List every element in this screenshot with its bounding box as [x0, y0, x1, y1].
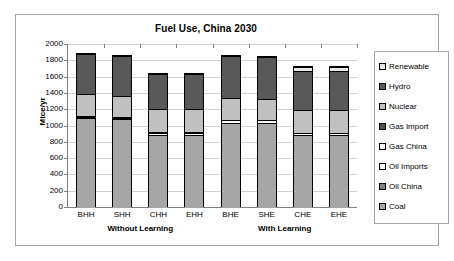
bar-segment-coal	[222, 124, 240, 208]
legend-swatch-icon	[379, 183, 386, 190]
bar-ehe[interactable]	[329, 66, 349, 207]
x-axis-label-che: CHE	[283, 210, 323, 219]
y-axis-tick-label: 1200	[23, 105, 63, 113]
bar-segment-oil-china	[222, 123, 240, 124]
y-axis-tick-label: 1400	[23, 89, 63, 97]
y-axis-tick	[64, 109, 68, 110]
x-axis-tick	[140, 44, 141, 48]
bar-segment-gas-import	[185, 132, 203, 133]
y-axis-tick	[64, 93, 68, 94]
group-label-without-learning: Without Learning	[70, 224, 210, 233]
legend-swatch-icon	[379, 143, 386, 150]
legend-swatch-icon	[379, 163, 386, 170]
legend-label: Renewable	[389, 62, 429, 71]
bar-segment-gas-import	[330, 133, 348, 134]
legend-item-coal[interactable]: Coal	[379, 196, 448, 216]
y-axis-tick-label: 0	[23, 203, 63, 211]
bar-segment-hydro	[258, 57, 276, 99]
legend-swatch-icon	[379, 203, 386, 210]
bar-segment-gas-import	[149, 132, 167, 133]
y-axis-tick	[64, 126, 68, 127]
bar-segment-nuclear	[149, 109, 167, 132]
x-axis-label-shh: SHH	[102, 210, 142, 219]
bar-segment-nuclear	[77, 94, 95, 116]
y-axis-tick	[64, 77, 68, 78]
bar-segment-hydro	[77, 54, 95, 94]
bar-segment-coal	[149, 135, 167, 208]
x-axis-tick	[321, 44, 322, 48]
bar-segment-nuclear	[258, 99, 276, 120]
legend-label: Oil China	[389, 182, 422, 191]
legend-swatch-icon	[379, 123, 386, 130]
legend-item-renewable[interactable]: Renewable	[379, 56, 448, 76]
bar-shh[interactable]	[112, 55, 132, 207]
x-axis-tick	[213, 44, 214, 48]
y-axis-tick	[64, 158, 68, 159]
x-axis-tick	[357, 44, 358, 48]
bar-segment-nuclear	[185, 109, 203, 132]
y-axis-tick	[64, 174, 68, 175]
bar-segment-nuclear	[222, 98, 240, 119]
bar-segment-nuclear	[294, 110, 312, 133]
x-axis-label-bhe: BHE	[211, 210, 251, 219]
y-axis-tick-label: 800	[23, 138, 63, 146]
legend-item-oil-china[interactable]: Oil China	[379, 176, 448, 196]
legend-swatch-icon	[379, 83, 386, 90]
y-axis-tick-label: 1000	[23, 122, 63, 130]
bar-che[interactable]	[293, 66, 313, 207]
x-axis-label-ehh: EHH	[174, 210, 214, 219]
bar-segment-coal	[77, 119, 95, 208]
bar-segment-oil-china	[294, 135, 312, 136]
x-axis-tick	[285, 44, 286, 48]
x-axis-tick	[176, 44, 177, 48]
chart-figure: Fuel Use, China 2030 Mtce/yr 02004006008…	[0, 0, 454, 261]
legend-item-oil-imports[interactable]: Oil Imports	[379, 156, 448, 176]
legend-label: Hydro	[389, 82, 410, 91]
x-axis-label-bhh: BHH	[66, 210, 106, 219]
bar-bhe[interactable]	[221, 55, 241, 207]
bar-segment-hydro	[222, 56, 240, 98]
bar-chh[interactable]	[148, 73, 168, 207]
legend-item-gas-import[interactable]: Gas Import	[379, 116, 448, 136]
bar-segment-gas-import	[113, 117, 131, 118]
legend-swatch-icon	[379, 103, 386, 110]
bar-segment-oil-china	[149, 135, 167, 136]
bar-segment-coal	[185, 135, 203, 208]
bar-segment-oil-china	[113, 119, 131, 120]
y-axis-tick-label: 1600	[23, 73, 63, 81]
chart-frame: Fuel Use, China 2030 Mtce/yr 02004006008…	[15, 14, 439, 246]
legend-label: Coal	[389, 202, 405, 211]
chart-legend: RenewableHydroNuclearGas ImportGas China…	[374, 51, 449, 224]
bar-segment-gas-import	[258, 120, 276, 121]
y-axis-tick	[64, 44, 68, 45]
y-axis-tick	[64, 207, 68, 208]
bar-segment-oil-china	[185, 135, 203, 136]
bar-segment-oil-china	[77, 118, 95, 119]
x-axis-tick	[249, 44, 250, 48]
legend-label: Nuclear	[389, 102, 417, 111]
legend-item-gas-china[interactable]: Gas China	[379, 136, 448, 156]
bar-segment-renewable	[330, 67, 348, 71]
bar-segment-nuclear	[330, 110, 348, 133]
legend-label: Gas Import	[389, 122, 429, 131]
bar-segment-gas-import	[222, 120, 240, 121]
bar-segment-coal	[113, 120, 131, 208]
bar-segment-oil-china	[330, 135, 348, 136]
bar-she[interactable]	[257, 56, 277, 207]
y-axis-tick-label: 2000	[23, 40, 63, 48]
y-axis-tick	[64, 191, 68, 192]
legend-item-nuclear[interactable]: Nuclear	[379, 96, 448, 116]
bar-segment-gas-import	[77, 116, 95, 117]
bar-segment-hydro	[330, 71, 348, 109]
bar-bhh[interactable]	[76, 53, 96, 207]
bar-segment-coal	[258, 124, 276, 208]
bar-ehh[interactable]	[184, 73, 204, 207]
chart-title: Fuel Use, China 2030	[56, 23, 356, 34]
y-axis-tick-label: 600	[23, 154, 63, 162]
bar-segment-hydro	[185, 74, 203, 110]
y-axis-tick	[64, 142, 68, 143]
legend-item-hydro[interactable]: Hydro	[379, 76, 448, 96]
y-axis-tick-label: 1800	[23, 56, 63, 64]
group-label-with-learning: With Learning	[215, 224, 355, 233]
bar-segment-renewable	[294, 67, 312, 71]
